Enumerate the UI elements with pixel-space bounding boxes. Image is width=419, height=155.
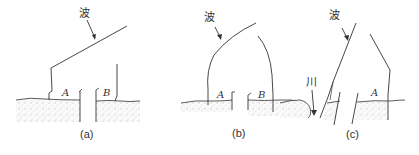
ground-right-a <box>96 101 140 123</box>
river-label-c: 川 <box>306 77 317 88</box>
wave-label-a: 波 <box>79 8 90 19</box>
region-label-b-A: A <box>217 90 224 100</box>
wave-label-c: 波 <box>329 10 340 21</box>
region-label-a-B: B <box>103 88 110 98</box>
ground-right-c <box>355 100 405 120</box>
caption-b: (b) <box>232 128 245 139</box>
river-arrow-c <box>312 90 314 113</box>
panel-c <box>280 23 405 125</box>
region-label-b-B: B <box>258 90 265 100</box>
caption-c: (c) <box>346 129 359 140</box>
wave-label-b: 波 <box>204 12 215 23</box>
region-label-a-A: A <box>62 88 69 98</box>
caption-a: (a) <box>80 129 93 140</box>
panel-a <box>16 20 140 122</box>
ground-left-a <box>16 98 80 122</box>
wave-front-a <box>49 68 52 100</box>
region-label-c-A: A <box>371 88 378 98</box>
